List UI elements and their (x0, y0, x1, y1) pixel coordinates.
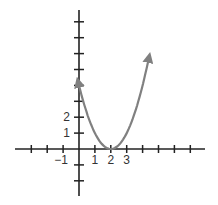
tick-labels: −112312 (54, 110, 130, 167)
y-tick-label: 2 (63, 110, 70, 124)
y-tick-label: 1 (63, 126, 70, 140)
parabola-chart: −112312 (0, 0, 218, 205)
x-tick-label: 3 (123, 153, 130, 167)
x-tick-label: 2 (107, 153, 114, 167)
x-tick-label: −1 (54, 153, 68, 167)
x-tick-label: 1 (92, 153, 99, 167)
axes (15, 10, 205, 196)
parabola-curve (78, 57, 149, 149)
